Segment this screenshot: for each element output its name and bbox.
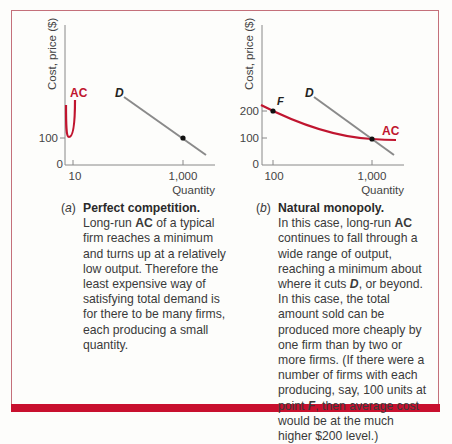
caption-title: Natural monopoly. [278, 201, 428, 216]
y-tick-100: 100 [240, 132, 259, 144]
caption-title: Perfect competition. [83, 201, 233, 216]
y-tick-0: 0 [253, 158, 259, 170]
x-axis-label: Quantity [361, 184, 404, 196]
demand-label: D [305, 86, 314, 100]
y-axis-label: Cost, price ($) [243, 18, 255, 90]
caption-a: (a) Perfect competition. Long-run AC of … [83, 201, 233, 353]
caption-text: In this case, long-run AC continues to f… [278, 216, 426, 443]
caption-text: Long-run AC of a typical firm reaches a … [83, 216, 226, 352]
caption-b: (b) Natural monopoly. In this case, long… [278, 201, 428, 444]
point-f-label: F [277, 95, 284, 107]
caption-label: (b) [256, 201, 271, 216]
caption-label: (a) [61, 201, 76, 216]
y-tick-200: 200 [240, 105, 259, 117]
x-tick-1000: 1,000 [358, 170, 387, 182]
x-tick-100: 100 [264, 170, 283, 182]
point-f [270, 108, 275, 113]
ac-label: AC [382, 124, 400, 138]
intersection-point [369, 136, 374, 141]
